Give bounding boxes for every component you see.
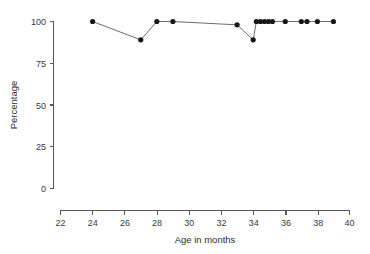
x-axis-title: Age in months	[175, 234, 236, 245]
chart-figure: 100 75 50 25 0 Percentage 22 24 26 28 30…	[0, 0, 370, 254]
data-point	[235, 22, 240, 27]
data-point	[154, 19, 159, 24]
y-tick-label-75: 75	[36, 59, 46, 69]
y-tick-label-50: 50	[36, 101, 46, 111]
y-axis-ticks	[50, 22, 54, 189]
x-axis-ticks	[61, 211, 350, 216]
data-point	[315, 19, 320, 24]
x-tick-label-24: 24	[88, 218, 98, 228]
data-point	[283, 19, 288, 24]
data-point	[251, 37, 256, 42]
x-tick-label-26: 26	[120, 218, 130, 228]
x-tick-label-32: 32	[217, 218, 227, 228]
x-tick-label-40: 40	[344, 218, 354, 228]
x-tick-label-34: 34	[249, 218, 259, 228]
x-tick-label-30: 30	[184, 218, 194, 228]
x-tick-label-28: 28	[152, 218, 162, 228]
x-tick-label-38: 38	[313, 218, 323, 228]
data-point	[170, 19, 175, 24]
series-markers-percentage	[90, 19, 336, 43]
data-point	[138, 37, 143, 42]
chart-plot-area: 100 75 50 25 0 Percentage 22 24 26 28 30…	[0, 0, 370, 254]
x-tick-label-22: 22	[55, 218, 65, 228]
series-line-percentage	[93, 22, 334, 40]
y-tick-label-0: 0	[41, 184, 46, 194]
data-point	[299, 19, 304, 24]
y-axis-title: Percentage	[8, 81, 19, 130]
data-point	[90, 19, 95, 24]
data-point	[270, 19, 275, 24]
x-tick-label-36: 36	[281, 218, 291, 228]
y-tick-label-100: 100	[31, 17, 46, 27]
data-point	[331, 19, 336, 24]
data-point	[304, 19, 309, 24]
y-tick-label-25: 25	[36, 142, 46, 152]
